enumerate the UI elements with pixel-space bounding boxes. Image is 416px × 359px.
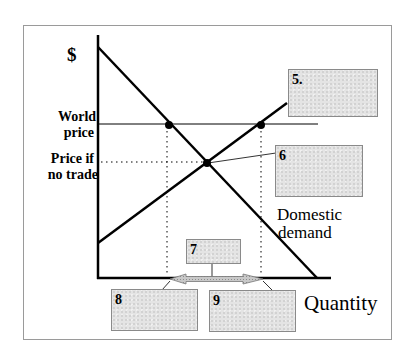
answer-box-9[interactable]: 9 — [209, 290, 296, 332]
answer-box-5-number: 5. — [292, 72, 303, 88]
x-axis-label: Quantity — [304, 293, 378, 314]
answer-box-7[interactable]: 7 — [186, 239, 241, 264]
no-trade-price-label-line1: Price if — [46, 152, 94, 166]
world-price-label-line2: price — [58, 126, 94, 140]
domestic-demand-label-line2: demand — [278, 224, 332, 241]
answer-box-9-number: 9 — [213, 293, 220, 309]
answer-box-6-number: 6 — [279, 148, 286, 164]
world-price-demand-point — [165, 121, 173, 129]
no-trade-price-label-line2: no trade — [46, 168, 98, 182]
world-price-supply-point — [257, 121, 265, 129]
y-axis-label: $ — [67, 45, 77, 64]
answer-box-7-number: 7 — [190, 242, 197, 258]
answer-box-5[interactable]: 5. — [288, 69, 378, 117]
answer-box-8-number: 8 — [115, 292, 122, 308]
answer-box-6[interactable]: 6 — [275, 145, 363, 197]
answer-box-8[interactable]: 8 — [111, 289, 198, 331]
domestic-demand-label-line1: Domestic — [277, 206, 342, 223]
world-price-label-line1: World — [58, 110, 94, 124]
imports-double-arrow — [170, 274, 263, 284]
